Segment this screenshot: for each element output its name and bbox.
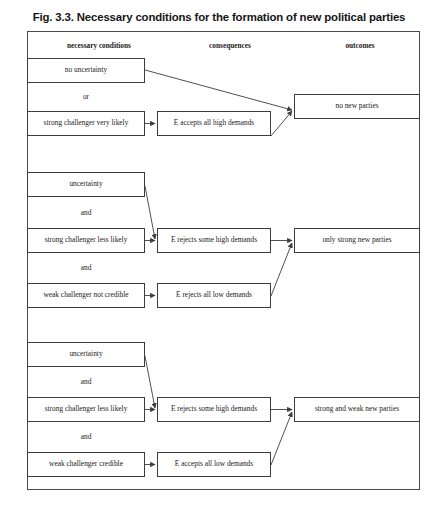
condition-box-uncertainty-2[interactable]: uncertainty xyxy=(27,172,145,197)
connector-label-and-3b: and xyxy=(27,422,145,452)
connector-label-and-2a: and xyxy=(27,197,145,228)
column-header-necessary-conditions: necessary conditions xyxy=(44,41,154,50)
edge-uncertainty2-to-rejects-some-high xyxy=(145,186,155,239)
outcome-box-no-new-parties[interactable]: no new parties xyxy=(294,94,420,119)
consequence-box-e-accepts-all-high-demands[interactable]: E accepts all high demands xyxy=(157,111,271,136)
consequence-box-e-rejects-all-low-demands[interactable]: E rejects all low demands xyxy=(157,283,271,308)
connector-label-or: or xyxy=(27,83,145,111)
condition-box-weak-challenger-credible[interactable]: weak challenger credible xyxy=(27,452,145,477)
column-header-consequences: consequences xyxy=(175,41,285,50)
outcome-box-strong-and-weak-new-parties[interactable]: strong and weak new parties xyxy=(294,397,420,422)
edge-accepts-all-low-to-strong-weak xyxy=(271,412,292,465)
condition-box-uncertainty-3[interactable]: uncertainty xyxy=(27,342,145,367)
condition-box-strong-challenger-less-likely-3[interactable]: strong challenger less likely xyxy=(27,397,145,422)
edge-uncertainty3-to-rejects-some-high xyxy=(145,356,155,408)
condition-box-weak-challenger-not-credible[interactable]: weak challenger not credible xyxy=(27,283,145,308)
edge-no-uncertainty-to-no-new-parties xyxy=(145,70,292,110)
column-header-outcomes: outcomes xyxy=(305,41,415,50)
outcome-box-only-strong-new-parties[interactable]: only strong new parties xyxy=(294,228,420,253)
figure-container: Fig. 3.3. Necessary conditions for the f… xyxy=(0,0,438,512)
edge-accepts-high-to-no-new-parties xyxy=(271,111,292,136)
consequence-box-e-rejects-some-high-demands-2[interactable]: E rejects some high demands xyxy=(157,228,271,253)
condition-box-no-uncertainty[interactable]: no uncertainty xyxy=(27,58,145,83)
connector-label-and-3a: and xyxy=(27,367,145,397)
connector-label-and-2b: and xyxy=(27,253,145,283)
condition-box-strong-challenger-less-likely-2[interactable]: strong challenger less likely xyxy=(27,228,145,253)
edge-rejects-all-low-to-only-strong xyxy=(271,243,292,296)
condition-box-strong-challenger-very-likely[interactable]: strong challenger very likely xyxy=(27,111,145,136)
consequence-box-e-accepts-all-low-demands[interactable]: E accepts all low demands xyxy=(157,452,271,477)
consequence-box-e-rejects-some-high-demands-3[interactable]: E rejects some high demands xyxy=(157,397,271,422)
